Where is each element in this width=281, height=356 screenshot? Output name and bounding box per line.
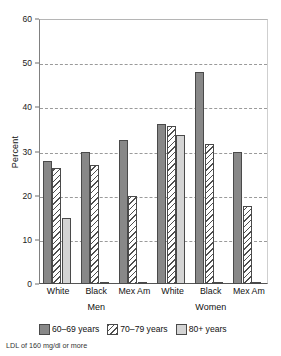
x-group-label-women: Women <box>195 302 226 312</box>
y-tick-label-40: 40 <box>23 103 32 112</box>
x-group-label-men: Men <box>87 302 105 312</box>
y-tick-label-10: 10 <box>23 236 32 245</box>
y-axis: Percent 0102030405060 <box>0 19 39 284</box>
legend-swatch-icon <box>107 324 118 335</box>
x-tick-label: Black <box>85 286 107 296</box>
legend-item: 80+ years <box>176 324 227 335</box>
x-tick-label: White <box>161 286 184 296</box>
x-tick-label: White <box>47 286 70 296</box>
legend-label: 60–69 years <box>52 324 99 334</box>
y-axis-title: Percent <box>10 116 20 188</box>
legend-swatch-icon <box>176 324 187 335</box>
chart-footnote: LDL of 160 mg/dl or more <box>6 341 87 350</box>
y-tick-label-60: 60 <box>23 15 32 24</box>
chart-legend: 60–69 years70–79 years80+ years <box>39 322 268 336</box>
legend-item: 70–79 years <box>107 324 167 335</box>
y-tick-label-20: 20 <box>23 191 32 200</box>
bar-chart-figure: Percent 0102030405060 WhiteBlackMex AmWh… <box>0 0 281 356</box>
bar <box>233 152 242 285</box>
bar <box>243 206 252 284</box>
bar-cluster <box>39 19 268 284</box>
legend-label: 80+ years <box>189 324 227 334</box>
x-tick-label: Mex Am <box>119 286 151 296</box>
y-tick-label-30: 30 <box>23 147 32 156</box>
legend-label: 70–79 years <box>120 324 167 334</box>
legend-swatch-icon <box>39 324 50 335</box>
legend-item: 60–69 years <box>39 324 99 335</box>
bars-layer <box>39 19 268 284</box>
y-tick-label-50: 50 <box>23 59 32 68</box>
x-tick-label: Mex Am <box>233 286 265 296</box>
x-tick-label: Black <box>200 286 222 296</box>
y-tick-label-0: 0 <box>27 280 32 289</box>
x-axis: WhiteBlackMex AmWhiteBlackMex AmMenWomen <box>39 284 268 318</box>
